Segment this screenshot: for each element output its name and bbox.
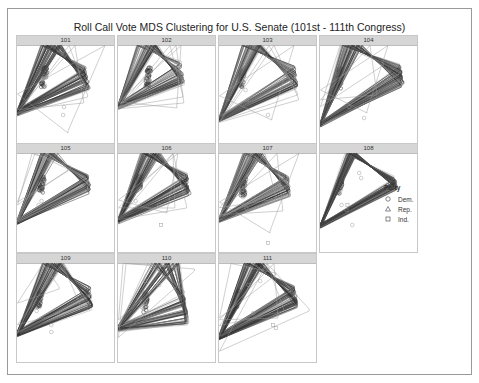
facet-panel-104: 104 — [319, 35, 418, 145]
chart-title: Roll Call Vote MDS Clustering for U.S. S… — [0, 21, 479, 33]
scatter-plot — [219, 263, 317, 363]
scatter-plot — [17, 153, 115, 253]
triangle-marker-icon — [384, 205, 392, 213]
scatter-plot — [219, 153, 317, 253]
scatter-plot — [118, 263, 216, 363]
scatter-plot — [320, 45, 418, 145]
facet-panel-111: 111 — [218, 253, 317, 363]
legend-item-ind: Ind. — [384, 214, 414, 224]
legend-title: Party — [384, 184, 414, 191]
facet-panel-101: 101 — [16, 35, 115, 145]
circle-marker-icon — [384, 195, 392, 203]
facet-panel-106: 106 — [117, 143, 216, 253]
legend: Party Dem. Rep. Ind. — [384, 184, 414, 224]
facet-panel-102: 102 — [117, 35, 216, 145]
legend-item-dem: Dem. — [384, 194, 414, 204]
square-marker-icon — [384, 215, 392, 223]
facet-panel-109: 109 — [16, 253, 115, 363]
scatter-plot — [118, 45, 216, 145]
facet-panel-105: 105 — [16, 143, 115, 253]
facet-panel-107: 107 — [218, 143, 317, 253]
scatter-plot — [118, 153, 216, 253]
scatter-plot — [17, 263, 115, 363]
facet-panel-103: 103 — [218, 35, 317, 145]
legend-item-rep: Rep. — [384, 204, 414, 214]
scatter-plot — [219, 45, 317, 145]
scatter-plot — [17, 45, 115, 145]
facet-panel-110: 110 — [117, 253, 216, 363]
